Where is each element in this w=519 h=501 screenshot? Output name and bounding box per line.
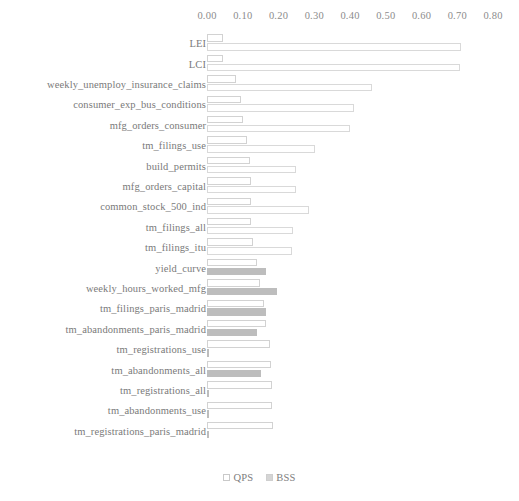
- bar-bss: [207, 125, 350, 132]
- bar-bss: [207, 410, 209, 417]
- legend-label-bss: BSS: [276, 472, 295, 483]
- x-tick-label: 0.40: [340, 10, 359, 21]
- category-label: LEI: [189, 38, 206, 49]
- bar-qps: [207, 279, 260, 286]
- bar-bss: [207, 431, 209, 438]
- bar-qps: [207, 96, 241, 103]
- bar-bss: [207, 370, 261, 377]
- x-tick-label: 0.50: [376, 10, 395, 21]
- chart-row: tm_registrations_paris_madrid: [0, 421, 519, 441]
- legend-label-qps: QPS: [233, 472, 253, 483]
- bar-bss: [207, 206, 309, 213]
- bar-bss: [207, 166, 296, 173]
- category-label: tm_registrations_all: [120, 384, 206, 395]
- bar-bss: [207, 308, 266, 315]
- bar-bss: [207, 227, 293, 234]
- bar-qps: [207, 402, 272, 409]
- category-label: tm_filings_all: [146, 221, 206, 232]
- bss-swatch-icon: [266, 474, 273, 481]
- x-tick-label: 0.60: [412, 10, 431, 21]
- x-tick-label: 0.70: [448, 10, 467, 21]
- category-label: consumer_exp_bus_conditions: [73, 99, 206, 110]
- category-label: tm_filings_itu: [145, 242, 206, 253]
- chart-row: mfg_orders_consumer: [0, 115, 519, 135]
- bar-qps: [207, 218, 251, 225]
- x-tick-label: 0.30: [305, 10, 324, 21]
- x-tick-label: 0.80: [483, 10, 502, 21]
- bar-qps: [207, 238, 253, 245]
- chart-row: consumer_exp_bus_conditions: [0, 94, 519, 114]
- bar-bss: [207, 329, 257, 336]
- bar-qps: [207, 320, 266, 327]
- legend-item-qps: QPS: [223, 472, 253, 483]
- chart-row: tm_abandonments_paris_madrid: [0, 319, 519, 339]
- chart-row: LCI: [0, 53, 519, 73]
- bar-qps: [207, 157, 250, 164]
- chart-row: tm_filings_all: [0, 217, 519, 237]
- chart-row: tm_filings_itu: [0, 237, 519, 257]
- bar-bss: [207, 247, 292, 254]
- category-label: tm_filings_paris_madrid: [100, 303, 206, 314]
- category-label: yield_curve: [155, 262, 206, 273]
- bar-chart: 0.000.100.200.300.400.500.600.700.80 LEI…: [0, 0, 519, 501]
- chart-row: tm_filings_paris_madrid: [0, 298, 519, 318]
- chart-row: tm_abandonments_all: [0, 359, 519, 379]
- category-label: LCI: [189, 58, 206, 69]
- x-tick-label: 0.10: [233, 10, 252, 21]
- category-label: weekly_unemploy_insurance_claims: [47, 78, 206, 89]
- bar-bss: [207, 349, 209, 356]
- category-label: tm_abandonments_paris_madrid: [66, 323, 206, 334]
- chart-row: tm_filings_use: [0, 135, 519, 155]
- category-label: tm_registrations_use: [117, 344, 207, 355]
- bar-qps: [207, 136, 247, 143]
- bar-bss: [207, 288, 277, 295]
- bar-bss: [207, 43, 461, 50]
- chart-row: common_stock_500_ind: [0, 196, 519, 216]
- category-label: mfg_orders_capital: [123, 180, 206, 191]
- category-label: tm_filings_use: [142, 140, 206, 151]
- bar-bss: [207, 145, 315, 152]
- x-tick-label: 0.20: [269, 10, 288, 21]
- category-label: tm_registrations_paris_madrid: [74, 425, 206, 436]
- chart-row: mfg_orders_capital: [0, 176, 519, 196]
- bar-qps: [207, 177, 251, 184]
- bar-qps: [207, 198, 251, 205]
- chart-row: LEI: [0, 33, 519, 53]
- qps-swatch-icon: [223, 474, 230, 481]
- chart-row: tm_abandonments_use: [0, 400, 519, 420]
- category-label: build_permits: [146, 160, 206, 171]
- category-label: tm_abandonments_all: [111, 364, 206, 375]
- category-label: tm_abandonments_use: [108, 405, 206, 416]
- bar-qps: [207, 34, 223, 41]
- bar-bss: [207, 268, 266, 275]
- bar-qps: [207, 381, 272, 388]
- legend-item-bss: BSS: [266, 472, 295, 483]
- bar-bss: [207, 186, 296, 193]
- bar-qps: [207, 259, 257, 266]
- bar-bss: [207, 390, 209, 397]
- bar-qps: [207, 300, 264, 307]
- chart-row: weekly_unemploy_insurance_claims: [0, 74, 519, 94]
- bar-qps: [207, 55, 223, 62]
- bar-bss: [207, 84, 372, 91]
- bar-qps: [207, 422, 273, 429]
- plot-area: LEILCIweekly_unemploy_insurance_claimsco…: [0, 33, 519, 461]
- bar-qps: [207, 361, 271, 368]
- bar-bss: [207, 64, 460, 71]
- bar-bss: [207, 104, 354, 111]
- chart-row: tm_registrations_use: [0, 339, 519, 359]
- chart-legend: QPS BSS: [0, 472, 519, 483]
- category-label: common_stock_500_ind: [100, 201, 206, 212]
- bar-qps: [207, 116, 243, 123]
- chart-row: yield_curve: [0, 257, 519, 277]
- category-label: mfg_orders_consumer: [110, 119, 206, 130]
- bar-qps: [207, 75, 236, 82]
- x-tick-label: 0.00: [197, 10, 216, 21]
- chart-row: weekly_hours_worked_mfg: [0, 278, 519, 298]
- x-axis-tick-labels: 0.000.100.200.300.400.500.600.700.80: [0, 10, 519, 26]
- category-label: weekly_hours_worked_mfg: [86, 282, 206, 293]
- chart-row: tm_registrations_all: [0, 380, 519, 400]
- bar-qps: [207, 340, 270, 347]
- chart-row: build_permits: [0, 155, 519, 175]
